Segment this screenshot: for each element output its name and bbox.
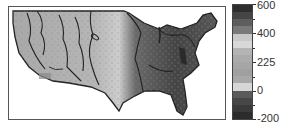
colorbar-band: [233, 98, 252, 105]
colorbar-band: [233, 26, 252, 33]
colorbar-band: [233, 34, 252, 41]
colorbar-label-225: 225: [257, 57, 275, 68]
colorbar-tick: [253, 62, 256, 63]
colorbar-band: [233, 91, 252, 98]
colorbar-band: [233, 105, 252, 112]
map-panel: [8, 6, 226, 120]
colorbar-band: [233, 69, 252, 76]
colorbar-tick: [253, 119, 256, 120]
colorbar: [232, 4, 253, 120]
colorbar-band: [233, 19, 252, 26]
colorbar-band: [233, 76, 252, 83]
colorbar-tick: [253, 4, 256, 5]
colorbar-minor-tick: [253, 19, 255, 20]
colorbar-band: [233, 55, 252, 62]
us-map: [9, 7, 226, 120]
colorbar-label-600: 600: [257, 0, 275, 11]
colorbar-band: [233, 12, 252, 19]
colorbar-tick: [253, 33, 256, 34]
colorbar-band: [233, 41, 252, 48]
southwest-patch: [39, 73, 51, 79]
colorbar-tick: [253, 91, 256, 92]
colorbar-band: [233, 5, 252, 12]
colorbar-band: [233, 62, 252, 69]
colorbar-label-neg200: -200: [257, 113, 279, 124]
colorbar-label-400: 400: [257, 28, 275, 39]
colorbar-band: [233, 112, 252, 119]
colorbar-band: [233, 83, 252, 90]
colorbar-minor-tick: [253, 48, 255, 49]
colorbar-minor-tick: [253, 105, 255, 106]
colorbar-minor-tick: [253, 77, 255, 78]
colorbar-band: [233, 48, 252, 55]
colorbar-label-0: 0: [257, 85, 263, 96]
